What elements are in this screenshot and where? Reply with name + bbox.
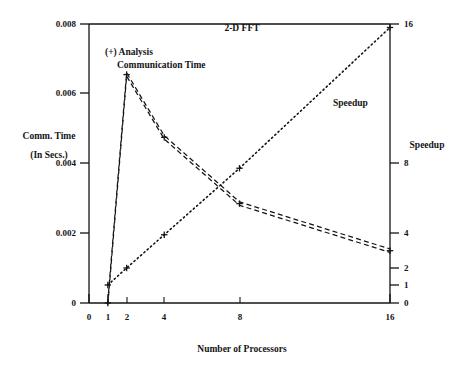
left-tick-label-0: 0: [72, 298, 77, 308]
x-axis-tick-labels: 0 1 2 4 8 16: [87, 312, 395, 322]
y2-axis-title: Speedup: [410, 140, 445, 150]
analysis-annotation-line2: Communication Time: [117, 60, 206, 70]
right-axis-tick-labels: 16 8 4 2 1 0: [404, 19, 414, 308]
x-tick-label-16: 16: [386, 312, 396, 322]
analysis-annotation-line1: (+) Analysis: [105, 47, 153, 58]
right-tick-label-8: 8: [404, 158, 409, 168]
speedup-series-label: Speedup: [333, 98, 368, 108]
right-axis-ticks: [390, 24, 399, 303]
left-tick-label-0.008: 0.008: [56, 19, 77, 29]
x-tick-label-2: 2: [125, 312, 130, 322]
chart-title: 2-D FFT: [224, 23, 260, 33]
right-tick-label-2: 2: [404, 263, 409, 273]
datapoint-marker-1-0: [105, 282, 111, 288]
right-tick-label-16: 16: [404, 19, 414, 29]
chart-container: 0.008 0.006 0.004 0.002 0 16 8 4 2 1 0: [0, 0, 463, 377]
x-tick-label-0: 0: [87, 312, 92, 322]
left-tick-label-0.002: 0.002: [56, 228, 77, 238]
left-tick-label-0.006: 0.006: [56, 88, 77, 98]
x-tick-label-1: 1: [106, 312, 111, 322]
left-axis-ticks: [80, 24, 89, 303]
x-axis-ticks: [89, 294, 390, 303]
datapoint-marker-0-0: [105, 300, 111, 306]
y-axis-title-line1: Comm. Time: [23, 131, 76, 141]
x-axis-title: Number of Processors: [197, 344, 287, 354]
right-tick-label-4: 4: [404, 228, 409, 238]
x-tick-label-8: 8: [238, 312, 243, 322]
right-tick-label-0: 0: [404, 298, 409, 308]
y-axis-title-line2: (In Secs.): [30, 150, 67, 161]
left-axis-tick-labels: 0.008 0.006 0.004 0.002 0: [56, 19, 77, 308]
x-tick-label-4: 4: [162, 312, 167, 322]
chart-svg: 0.008 0.006 0.004 0.002 0 16 8 4 2 1 0: [0, 0, 463, 377]
right-tick-label-1: 1: [404, 280, 409, 290]
comm-time-stroke-1: [108, 76, 390, 304]
